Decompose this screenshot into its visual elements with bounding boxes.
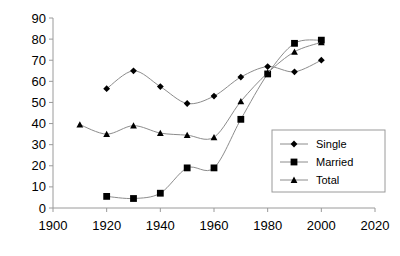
x-tick-label: 2000 (307, 218, 336, 233)
y-tick-label: 60 (32, 74, 46, 89)
data-point-single-2000 (318, 57, 325, 64)
x-tick-label: 1980 (253, 218, 282, 233)
x-tick-label: 2020 (361, 218, 390, 233)
line-chart: 0102030405060708090190019201940196019802… (0, 0, 400, 256)
data-point-married-1960 (211, 164, 218, 171)
data-point-single-1960 (211, 93, 218, 100)
data-point-married-1940 (157, 190, 164, 197)
y-tick-label: 50 (32, 95, 46, 110)
data-point-married-1970 (237, 116, 244, 123)
data-point-single-1930 (130, 67, 137, 74)
y-tick-label: 70 (32, 53, 46, 68)
x-tick-label: 1900 (39, 218, 68, 233)
y-tick-label: 40 (32, 116, 46, 131)
series-total (76, 39, 324, 140)
data-point-single-1980 (264, 63, 271, 70)
legend: SingleMarriedTotal (272, 130, 385, 192)
x-tick-label: 1960 (200, 218, 229, 233)
data-point-married-1920 (103, 193, 110, 200)
data-point-single-1940 (157, 83, 164, 90)
data-point-single-1970 (237, 74, 244, 81)
y-tick-label: 90 (32, 11, 46, 26)
data-point-married-1930 (130, 195, 137, 202)
data-point-married-1990 (291, 40, 298, 47)
chart-canvas: 0102030405060708090190019201940196019802… (0, 0, 400, 256)
legend-label-married: Married (316, 156, 353, 168)
series-line-total (80, 42, 321, 139)
legend-marker-square-icon (291, 159, 298, 166)
legend-label-single: Single (316, 138, 347, 150)
series-single (103, 57, 324, 107)
data-point-single-1990 (291, 68, 298, 75)
data-point-married-1950 (184, 164, 191, 171)
y-tick-label: 0 (39, 201, 46, 216)
data-point-total-1910 (76, 121, 83, 127)
y-tick-label: 20 (32, 158, 46, 173)
x-tick-label: 1940 (146, 218, 175, 233)
data-point-total-1990 (291, 48, 298, 54)
data-point-single-1950 (184, 100, 191, 107)
legend-label-total: Total (316, 174, 339, 186)
y-tick-label: 10 (32, 179, 46, 194)
y-tick-label: 30 (32, 137, 46, 152)
y-tick-label: 80 (32, 32, 46, 47)
x-tick-label: 1920 (92, 218, 121, 233)
